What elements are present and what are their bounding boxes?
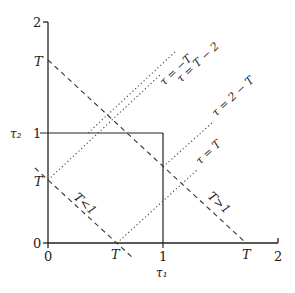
x-axis-label: τ₁ xyxy=(156,266,167,280)
y-T-large-label: T xyxy=(34,54,44,69)
x-T-small-label: T xyxy=(111,247,121,262)
label-T-greater-1: T>1 xyxy=(205,189,233,217)
dashed-lines xyxy=(35,60,246,258)
y-axis-label: τ₂ xyxy=(10,127,22,141)
line-tau-T-minus-2 xyxy=(88,52,175,133)
y-tick-label-1: 1 xyxy=(33,126,41,141)
y-tick-label-0: 0 xyxy=(33,236,41,251)
unit-square xyxy=(40,133,163,248)
y-tick-label-2: 2 xyxy=(33,15,41,30)
integration-region-diagram: 2 1 0 0 1 2 τ₂ τ₁ T T T T T<1 T>1 τ = −T… xyxy=(0,0,295,293)
axes xyxy=(43,22,278,248)
x-tick-label-0: 0 xyxy=(44,249,52,264)
label-tau-2-minus-T: τ = 2 − T xyxy=(209,73,258,120)
x-tick-label-1: 1 xyxy=(159,249,167,264)
line-T-less-1 xyxy=(35,168,133,258)
dotted-lines xyxy=(48,52,214,243)
line-tau-minus-T xyxy=(48,75,160,180)
y-T-small-label: T xyxy=(34,174,44,189)
label-tau-T: τ = T xyxy=(193,136,225,167)
line-tau-T xyxy=(117,170,197,243)
x-tick-label-2: 2 xyxy=(274,249,282,264)
x-T-large-label: T xyxy=(242,247,252,262)
